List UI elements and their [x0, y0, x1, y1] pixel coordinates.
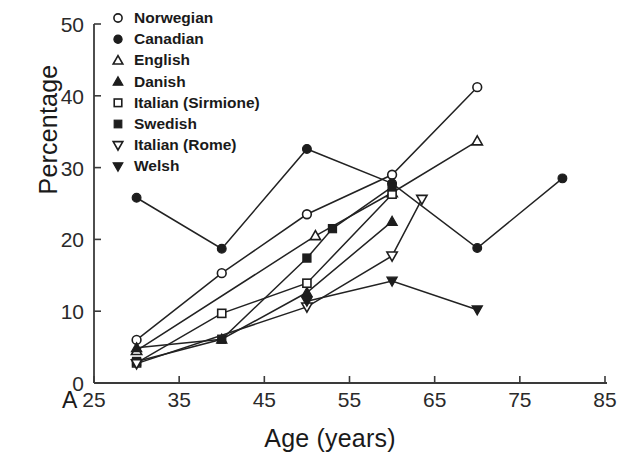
legend-label: Norwegian — [134, 9, 213, 26]
legend-entry: English — [113, 51, 190, 68]
data-point-filled-triangle-down — [472, 306, 482, 315]
legend-entry: Danish — [113, 73, 186, 90]
legend-label: Canadian — [134, 30, 204, 47]
x-tick-label: 65 — [423, 388, 446, 411]
y-axis-label: Percentage — [34, 20, 63, 240]
data-point-filled-triangle-up — [387, 216, 397, 225]
data-point-filled-circle — [217, 244, 226, 253]
data-point-open-square — [303, 279, 311, 287]
data-point-filled-triangle-down — [113, 163, 123, 171]
legend-label: Italian (Sirmione) — [134, 94, 260, 111]
data-point-open-circle — [114, 14, 122, 22]
legend-entry: Italian (Rome) — [113, 136, 236, 153]
data-point-open-triangle-up — [113, 56, 123, 64]
chart-canvas: 2535455565758501020304050 NorwegianCanad… — [0, 0, 641, 465]
data-point-open-circle — [473, 83, 482, 92]
legend-label: Danish — [134, 73, 186, 90]
data-point-filled-square — [328, 225, 336, 233]
data-point-filled-circle — [558, 174, 567, 183]
legend-entry: Norwegian — [114, 9, 213, 26]
x-tick-label: 25 — [82, 388, 105, 411]
series-canadian — [132, 145, 567, 254]
x-tick-label: 85 — [593, 388, 616, 411]
data-point-open-circle — [217, 269, 226, 278]
legend-entry: Italian (Sirmione) — [114, 94, 260, 111]
y-tick-label: 20 — [61, 228, 84, 251]
series-english — [131, 136, 482, 355]
panel-letter: A — [62, 387, 78, 413]
data-point-open-triangle-up — [472, 136, 482, 145]
data-point-open-triangle-up — [310, 231, 320, 240]
series-italian-sirmione — [133, 190, 397, 367]
chart-legend: NorwegianCanadianEnglishDanishItalian (S… — [113, 9, 260, 174]
data-point-filled-square — [303, 254, 311, 262]
series-danish — [131, 216, 397, 351]
legend-entry: Canadian — [114, 30, 204, 47]
legend-label: Italian (Rome) — [134, 136, 236, 153]
legend-label: English — [134, 51, 190, 68]
legend-label: Welsh — [134, 157, 179, 174]
series-line — [137, 221, 393, 347]
figure-panel: 2535455565758501020304050 NorwegianCanad… — [0, 0, 641, 465]
data-point-filled-square — [388, 183, 396, 191]
data-point-filled-circle — [132, 193, 141, 202]
y-tick-label: 30 — [61, 157, 84, 180]
data-point-open-square — [218, 309, 226, 317]
data-point-open-square — [114, 99, 122, 107]
y-tick-label: 50 — [61, 13, 84, 36]
data-point-open-triangle-down — [387, 252, 397, 261]
x-tick-label: 75 — [508, 388, 531, 411]
series-line — [137, 187, 393, 361]
series-swedish — [133, 183, 397, 366]
data-point-filled-circle — [473, 244, 482, 253]
data-point-open-circle — [303, 210, 312, 219]
series-line — [137, 149, 563, 249]
data-point-open-circle — [388, 170, 397, 179]
series-line — [137, 141, 478, 351]
y-tick-label: 40 — [61, 85, 84, 108]
legend-entry: Welsh — [113, 157, 179, 174]
data-point-filled-square — [114, 120, 122, 128]
series-welsh — [302, 277, 483, 315]
x-tick-label: 35 — [167, 388, 190, 411]
x-tick-label: 55 — [338, 388, 361, 411]
data-point-filled-circle — [303, 145, 312, 154]
data-point-filled-circle — [114, 35, 122, 43]
x-axis-label: Age (years) — [180, 424, 480, 453]
data-point-open-triangle-down — [113, 142, 123, 150]
data-point-filled-triangle-up — [113, 77, 123, 85]
legend-label: Swedish — [134, 115, 197, 132]
x-tick-label: 45 — [253, 388, 276, 411]
legend-entry: Swedish — [114, 115, 197, 132]
y-tick-label: 10 — [61, 300, 84, 323]
